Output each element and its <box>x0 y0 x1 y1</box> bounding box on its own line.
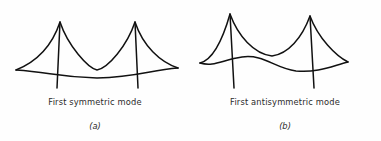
suspension-bridge-first-antisymmetric-mode-drawing <box>190 0 380 95</box>
figure-panel-b: First antisymmetric mode (b) <box>190 0 380 141</box>
suspension-cable-path <box>16 22 178 70</box>
suspension-cable-path <box>200 14 348 63</box>
figure-container: First symmetric mode (a) First antisymme… <box>0 0 381 141</box>
figure-panel-a: First symmetric mode (a) <box>0 0 190 141</box>
bridge-deck-path <box>200 57 348 72</box>
panel-b-sublabel: (b) <box>190 121 380 131</box>
panel-b-caption: First antisymmetric mode <box>190 97 380 107</box>
right-tower-path <box>135 22 138 88</box>
right-tower-path <box>310 16 314 88</box>
panel-a-caption: First symmetric mode <box>0 97 190 107</box>
left-tower-path <box>230 14 234 88</box>
left-tower-path <box>57 22 60 88</box>
suspension-bridge-first-symmetric-mode-drawing <box>0 0 190 95</box>
panel-a-sublabel: (a) <box>0 121 190 131</box>
